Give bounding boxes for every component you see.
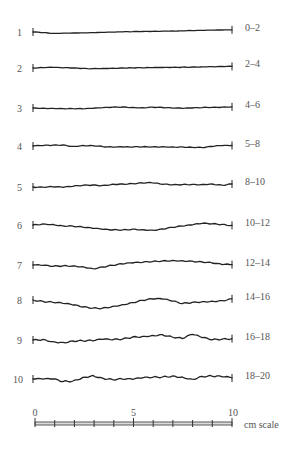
jrc-range-label: 2–4 xyxy=(245,58,260,69)
scale-unit-label: cm scale xyxy=(244,419,279,430)
scale-label-5: 5 xyxy=(131,407,136,418)
profile-line xyxy=(33,298,232,308)
jrc-range-label: 16–18 xyxy=(245,331,270,342)
profile-line xyxy=(33,107,232,109)
scale-label-10: 10 xyxy=(228,407,238,418)
profile-number: 3 xyxy=(17,103,22,114)
profile-line xyxy=(33,223,232,230)
profile-number: 2 xyxy=(17,63,22,74)
profile-number: 9 xyxy=(17,335,22,346)
profiles-layer: 10–222–434–645–858–10610–12712–14814–169… xyxy=(13,22,270,385)
profile-line xyxy=(33,334,232,342)
profile-line xyxy=(33,260,232,268)
jrc-range-label: 4–6 xyxy=(245,99,260,110)
jrc-range-label: 10–12 xyxy=(245,217,270,228)
profile-1: 10–2 xyxy=(17,22,260,38)
jrc-range-label: 0–2 xyxy=(245,22,260,33)
scale-label-0: 0 xyxy=(33,407,38,418)
profile-3: 34–6 xyxy=(17,99,260,114)
scale-bar: 0 5 10 cm scale xyxy=(33,407,280,430)
profile-line xyxy=(33,66,232,69)
jrc-range-label: 18–20 xyxy=(245,370,270,381)
jrc-range-label: 14–16 xyxy=(245,291,270,302)
profile-2: 22–4 xyxy=(17,58,260,74)
profile-line xyxy=(33,375,232,382)
profile-number: 7 xyxy=(17,260,22,271)
profile-number: 6 xyxy=(17,220,22,231)
jrc-range-label: 5–8 xyxy=(245,138,260,149)
profile-number: 8 xyxy=(17,295,22,306)
profile-number: 5 xyxy=(17,182,22,193)
profile-9: 916–18 xyxy=(17,331,270,346)
profile-number: 4 xyxy=(17,141,22,152)
profile-line xyxy=(33,145,232,148)
profile-line xyxy=(33,182,232,187)
profile-5: 58–10 xyxy=(17,176,265,193)
roughness-profiles-figure: 10–222–434–645–858–10610–12712–14814–169… xyxy=(0,0,293,450)
profile-7: 712–14 xyxy=(17,257,270,271)
profile-4: 45–8 xyxy=(17,138,260,153)
jrc-range-label: 12–14 xyxy=(245,257,270,268)
profile-number: 1 xyxy=(17,27,22,38)
profile-line xyxy=(33,30,232,34)
profile-6: 610–12 xyxy=(17,217,270,231)
jrc-range-label: 8–10 xyxy=(245,176,265,187)
profile-8: 814–16 xyxy=(17,291,270,309)
profile-number: 10 xyxy=(13,374,23,385)
profile-10: 1018–20 xyxy=(13,370,270,385)
